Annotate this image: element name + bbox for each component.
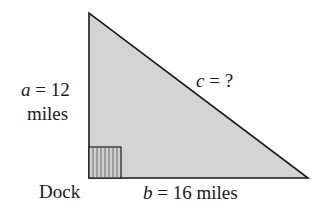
label-vertex-dock: Dock [39, 182, 80, 201]
side-a-variable: a [21, 79, 31, 100]
side-c-value: = ? [204, 70, 233, 91]
side-b-value: = 16 miles [153, 182, 238, 203]
side-b-variable: b [143, 182, 153, 203]
label-side-a-unit: miles [27, 104, 68, 123]
diagram-canvas: a = 12 miles c = ? Dock b = 16 miles [0, 0, 315, 208]
label-side-b: b = 16 miles [143, 183, 238, 202]
right-angle-marker [89, 147, 121, 178]
side-a-value: = 12 [31, 79, 70, 100]
right-triangle [89, 13, 308, 178]
label-hypotenuse-c: c = ? [196, 71, 233, 90]
label-side-a: a = 12 [21, 80, 70, 99]
